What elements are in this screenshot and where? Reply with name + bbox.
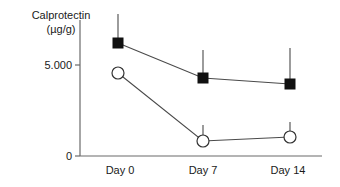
open-circle-marker-icon (284, 131, 296, 143)
filled-square-marker-icon (113, 38, 123, 48)
open-circle-marker-icon (112, 67, 124, 79)
filled-square-marker-icon (285, 79, 295, 89)
series-filled-square (113, 14, 295, 89)
filled-square-marker-icon (198, 73, 208, 83)
plot-area (0, 0, 340, 187)
chart-figure: Calprotectin (µg/g) 5.000 0 Day 0 Day 7 … (0, 0, 340, 187)
open-circle-marker-icon (197, 135, 209, 147)
